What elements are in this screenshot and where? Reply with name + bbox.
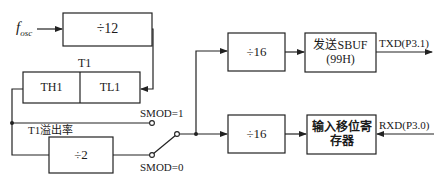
- smod1-label: SMOD=1: [140, 108, 184, 119]
- tx-sbuf-line1: 发送SBUF: [313, 39, 367, 53]
- th1-label: TH1: [23, 72, 80, 103]
- overflow-rate-label: T1溢出率: [28, 125, 73, 136]
- div16-tx-label: ÷16: [228, 33, 285, 71]
- tx-sbuf-line2: (99H): [326, 53, 355, 67]
- smod1-contact: [150, 121, 155, 126]
- div2-label: ÷2: [49, 137, 113, 173]
- rxd-label: RXD(P3.0): [379, 120, 429, 131]
- junction-dot-left: [10, 121, 14, 125]
- fosc-label: fosc: [16, 20, 32, 38]
- smod-switch: [153, 135, 176, 154]
- baud-rate-diagram: fosc ÷12 T1 TH1 TL1 ÷2 ÷16 ÷16 发送SBUF (9…: [0, 0, 445, 183]
- fosc-sub: osc: [20, 28, 32, 38]
- rx-shift-line2: 存器: [330, 135, 354, 149]
- junction-to-tx-div16: [196, 51, 227, 134]
- div16-rx-label: ÷16: [228, 115, 285, 153]
- smod0-contact: [150, 153, 155, 158]
- tx-sbuf-label: 发送SBUF (99H): [305, 33, 376, 72]
- rx-shift-line1: 输入移位寄: [312, 121, 372, 135]
- smod0-label: SMOD=0: [140, 162, 184, 173]
- rx-shift-label: 输入移位寄 存器: [307, 115, 376, 154]
- junction-dot-right: [194, 132, 198, 136]
- txd-label: TXD(P3.1): [379, 38, 429, 49]
- t1-title: T1: [78, 57, 91, 69]
- switch-common-contact: [175, 132, 180, 137]
- div12-label: ÷12: [63, 13, 152, 46]
- tl1-label: TL1: [80, 72, 140, 103]
